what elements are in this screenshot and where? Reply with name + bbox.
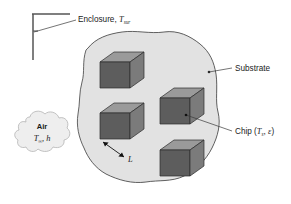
substrate-label-text: Substrate	[235, 64, 270, 73]
enclosure-bracket	[32, 14, 70, 60]
chip-bottom-right	[160, 140, 204, 176]
chip-middle-left	[100, 103, 144, 139]
air-label-coefficient: h	[46, 134, 50, 143]
air-label-conditions: T∞, h	[34, 134, 51, 144]
figure-canvas: Enclosure, Tsur Substrate Chip (Ts, ε) A…	[0, 0, 291, 204]
thermal-schematic-figure: Enclosure, Tsur Substrate Chip (Ts, ε) A…	[0, 0, 291, 204]
substrate-leader-dot	[208, 71, 211, 74]
length-dimension-label: L	[127, 155, 133, 164]
length-label-text: L	[127, 155, 133, 164]
chip-leader-dot	[185, 114, 188, 117]
enclosure-label: Enclosure, Tsur	[78, 15, 131, 25]
substrate-label: Substrate	[235, 64, 270, 73]
air-label-title: Air	[37, 122, 48, 131]
svg-text:Enclosure, Tsur: Enclosure, Tsur	[78, 15, 131, 25]
chip-top-left	[100, 52, 144, 88]
svg-text:Chip (Ts, ε): Chip (Ts, ε)	[235, 127, 274, 137]
enclosure-leader-line	[34, 20, 76, 32]
chip-label-prefix: Chip (	[235, 127, 257, 136]
chip-label: Chip (Ts, ε)	[235, 127, 274, 137]
enclosure-label-subscript: sur	[124, 19, 132, 25]
air-cloud	[15, 111, 70, 151]
enclosure-label-text: Enclosure,	[78, 15, 119, 24]
chip-label-suffix: )	[271, 127, 274, 136]
